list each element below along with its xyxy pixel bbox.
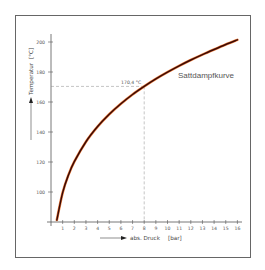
y-tick-label: 120 <box>36 160 45 165</box>
x-tick-label: 1 <box>61 226 64 231</box>
y-axis-title: Temperatur [°C] <box>28 48 35 96</box>
x-tick-label: 16 <box>234 226 240 231</box>
curve-label: Sattdampfkurve <box>178 71 235 80</box>
annotation-label: 170,4 °C <box>121 80 141 85</box>
y-tick-label: 200 <box>36 40 45 45</box>
y-tick-label: 100 <box>36 190 45 195</box>
x-axis-unit: [bar] <box>168 235 182 241</box>
x-tick-label: 8 <box>143 226 146 231</box>
x-tick-label: 14 <box>211 226 217 231</box>
x-tick-label: 9 <box>154 226 157 231</box>
y-axis-unit: [°C] <box>28 48 34 59</box>
x-tick-label: 10 <box>165 226 171 231</box>
x-tick-label: 2 <box>73 226 76 231</box>
x-tick-label: 3 <box>84 226 87 231</box>
y-tick-label: 160 <box>36 100 45 105</box>
x-tick-label: 11 <box>176 226 182 231</box>
x-tick-label: 6 <box>119 226 122 231</box>
x-tick-label: 13 <box>200 226 206 231</box>
y-axis-title-text: Temperatur <box>28 62 35 96</box>
chart: 12345678910111213141516 1001201401601802… <box>0 0 265 270</box>
x-tick-label: 4 <box>96 226 99 231</box>
y-tick-label: 140 <box>36 130 45 135</box>
x-tick-label: 15 <box>223 226 229 231</box>
y-tick-label: 180 <box>36 70 45 75</box>
x-tick-label: 12 <box>188 226 194 231</box>
x-tick-label: 5 <box>108 226 111 231</box>
x-tick-label: 7 <box>131 226 134 231</box>
x-axis-title-text: abs. Druck <box>130 235 161 241</box>
